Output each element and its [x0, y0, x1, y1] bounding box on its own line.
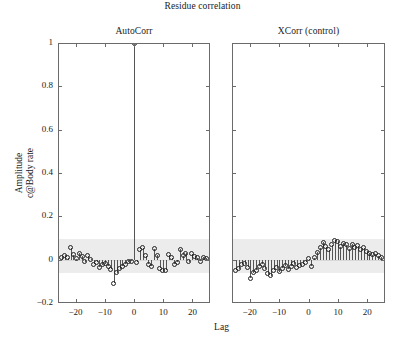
x-tick-label-p0-2: 0: [119, 307, 149, 317]
data-point-marker: [155, 253, 160, 258]
y-tick-label-5: 0: [13, 254, 53, 264]
x-tick-top-p1-3: [338, 43, 339, 47]
x-tick-p0-2: [134, 299, 135, 303]
x-tick-label-p1-1: −10: [264, 307, 294, 317]
x-tick-top-p0-3: [163, 43, 164, 47]
x-tick-p1-3: [338, 299, 339, 303]
x-tick-p1-4: [367, 299, 368, 303]
data-point-marker: [111, 281, 116, 286]
y-tick-label-0: 1: [13, 37, 53, 47]
x-tick-top-p1-2: [309, 43, 310, 47]
data-point-marker: [198, 259, 203, 264]
figure-title: Residue correlation: [0, 1, 405, 11]
y-tick-label-2: 0.6: [13, 124, 53, 134]
y-tick-right-0: [232, 43, 236, 44]
y-tick-right-5: [232, 260, 236, 261]
data-point-marker: [169, 255, 174, 260]
data-point-marker: [268, 273, 273, 278]
data-point-marker: [248, 276, 253, 281]
x-axis-label: Lag: [58, 322, 385, 332]
y-tick-label-4: 0.2: [13, 210, 53, 220]
x-tick-top-p0-2: [134, 43, 135, 47]
x-tick-label-p1-4: 20: [352, 307, 382, 317]
x-tick-label-p1-2: 0: [294, 307, 324, 317]
x-tick-label-p0-0: −20: [61, 307, 91, 317]
y-tick-right-inner-0: [381, 43, 385, 44]
x-tick-top-p0-1: [105, 43, 106, 47]
y-tick-left-3: [58, 173, 62, 174]
stem: [134, 43, 135, 260]
y-tick-right-3: [232, 173, 236, 174]
y-tick-left-inner-1: [206, 86, 210, 87]
data-point-marker: [88, 257, 93, 262]
y-tick-left-5: [58, 260, 62, 261]
y-tick-right-inner-5: [381, 260, 385, 261]
y-tick-right-1: [232, 86, 236, 87]
data-point-marker: [318, 245, 323, 250]
x-tick-top-p0-4: [192, 43, 193, 47]
panel-title-autocorr: AutoCorr: [58, 26, 210, 36]
x-tick-p0-4: [192, 299, 193, 303]
x-tick-label-p0-1: −10: [90, 307, 120, 317]
y-tick-left-2: [58, 130, 62, 131]
x-tick-p0-3: [163, 299, 164, 303]
data-point-marker: [178, 247, 183, 252]
data-point-marker: [74, 256, 79, 261]
x-tick-p0-1: [105, 299, 106, 303]
y-tick-left-1: [58, 86, 62, 87]
x-tick-top-p0-0: [76, 43, 77, 47]
x-tick-label-p0-3: 10: [148, 307, 178, 317]
plot-panel-xcorr: [232, 43, 385, 303]
y-tick-left-inner-0: [206, 43, 210, 44]
x-tick-p1-2: [309, 299, 310, 303]
x-tick-label-p1-3: 10: [323, 307, 353, 317]
x-tick-label-p1-0: −20: [235, 307, 265, 317]
data-point-marker: [129, 259, 134, 264]
y-tick-right-inner-4: [381, 216, 385, 217]
x-tick-p1-0: [250, 299, 251, 303]
y-tick-right-2: [232, 130, 236, 131]
y-tick-label-6: −0.2: [13, 297, 53, 307]
data-point-marker: [335, 239, 340, 244]
y-tick-label-1: 0.8: [13, 80, 53, 90]
y-tick-label-3: 0.4: [13, 167, 53, 177]
figure-canvas: Residue correlation Amplitude c@Body rat…: [0, 0, 405, 348]
x-tick-top-p1-4: [367, 43, 368, 47]
y-tick-left-inner-4: [206, 216, 210, 217]
data-point-marker: [80, 254, 85, 259]
data-point-marker: [315, 250, 320, 255]
data-point-marker: [149, 264, 154, 269]
x-tick-label-p0-4: 20: [177, 307, 207, 317]
plot-panel-autocorr: [58, 43, 210, 303]
data-point-marker: [245, 265, 250, 270]
y-tick-left-inner-2: [206, 130, 210, 131]
y-tick-right-inner-2: [381, 130, 385, 131]
y-tick-right-4: [232, 216, 236, 217]
y-tick-right-inner-3: [381, 173, 385, 174]
x-tick-p1-1: [279, 299, 280, 303]
y-tick-left-0: [58, 43, 62, 44]
x-tick-top-p1-1: [279, 43, 280, 47]
data-point-marker: [175, 260, 180, 265]
data-point-marker: [312, 255, 317, 260]
data-point-marker: [309, 264, 314, 269]
panel-title-xcorr: XCorr (control): [232, 26, 385, 36]
x-tick-p0-0: [76, 299, 77, 303]
y-tick-left-inner-5: [206, 260, 210, 261]
y-tick-left-inner-3: [206, 173, 210, 174]
y-tick-right-inner-1: [381, 86, 385, 87]
y-tick-left-4: [58, 216, 62, 217]
x-tick-top-p1-0: [250, 43, 251, 47]
